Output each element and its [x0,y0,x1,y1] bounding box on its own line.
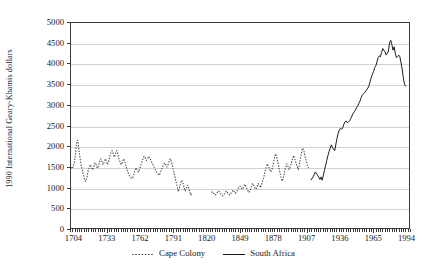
x-axis-tick-mark [229,229,230,232]
x-axis-tick-mark [293,229,294,232]
x-axis-tick-mark [231,229,232,232]
x-axis-tick-mark [233,229,234,232]
x-axis-tick-label: 1820 [198,233,215,243]
x-axis-tick-mark [100,229,101,232]
y-axis-tick-label: 1500 [24,162,64,172]
x-axis-tick-mark [164,229,165,232]
x-axis-tick-label: 1762 [131,233,148,243]
series-line-cape-colony [211,148,308,196]
y-axis-title: 1990 International Geary-Khamis dollars [0,0,18,236]
x-axis-tick-mark [369,229,370,232]
y-axis-title-text: 1990 International Geary-Khamis dollars [5,49,14,188]
x-axis-tick-mark [408,229,409,232]
x-axis-tick-mark [127,229,128,232]
x-axis-tick-mark [353,229,354,232]
x-axis-tick-mark [403,229,404,232]
x-axis-tick-mark [155,229,156,232]
x-axis-tick-mark [77,229,78,232]
x-axis-tick-mark [307,229,308,233]
x-axis-tick-mark [235,229,236,232]
x-axis-tick-mark [362,229,363,232]
x-axis-tick-mark [288,229,289,232]
x-axis-tick-mark [137,229,138,232]
y-axis-tick-label: 0 [24,224,64,234]
legend-label: Cape Colony [159,248,205,258]
x-axis-tick-mark [242,229,243,232]
x-axis-tick-mark [201,229,202,232]
x-axis-tick-mark [332,229,333,232]
x-axis-tick-mark [123,229,124,232]
x-axis-tick-mark [330,229,331,232]
y-axis-tick-label: 500 [24,203,64,213]
x-axis-tick-mark [311,229,312,232]
x-axis-tick-mark [341,229,342,232]
y-axis-tick-label: 3500 [24,79,64,89]
x-axis-tick-mark [286,229,287,232]
x-axis-tick-mark [300,229,301,232]
x-axis-tick-mark [116,229,117,232]
x-axis-tick-mark [185,229,186,232]
x-axis-tick-mark [173,229,174,233]
x-axis-tick-mark [107,229,108,233]
x-axis-tick-mark [410,229,411,232]
x-axis-tick-mark [215,229,216,232]
x-axis-tick-mark [385,229,386,232]
x-axis-tick-mark [114,229,115,232]
legend-item[interactable]: South Africa [223,248,295,258]
x-axis-tick-mark [291,229,292,232]
x-axis-tick-mark [70,229,71,232]
x-axis-tick-mark [279,229,280,232]
y-axis-tick-label: 1000 [24,183,64,193]
x-axis-tick-mark [125,229,126,232]
legend-item[interactable]: Cape Colony [132,248,205,258]
x-axis-tick-mark [86,229,87,232]
legend-swatch-icon [132,250,154,257]
x-axis-tick-mark [277,229,278,232]
x-axis-tick-mark [327,229,328,232]
x-axis-tick-mark [256,229,257,232]
y-axis-tick-label: 5000 [24,17,64,27]
x-axis-tick-mark [394,229,395,232]
x-axis-tick-mark [104,229,105,232]
x-axis-tick-mark [268,229,269,232]
x-axis-tick-mark [355,229,356,232]
x-axis-tick-mark [254,229,255,232]
x-axis-tick-mark [153,229,154,232]
x-axis-tick-mark [88,229,89,232]
x-axis-tick-mark [222,229,223,232]
x-axis-tick-mark [93,229,94,232]
x-axis-tick-mark [348,229,349,232]
y-axis-tick-label: 3000 [24,100,64,110]
x-axis-tick-mark [272,229,273,232]
x-axis-tick-mark [194,229,195,232]
x-axis-tick-mark [150,229,151,232]
x-axis-tick-label: 1907 [298,233,315,243]
x-axis-tick-label: 1849 [231,233,248,243]
x-axis-tick-mark [364,229,365,232]
x-axis-tick-mark [72,229,73,232]
x-axis-tick-mark [217,229,218,232]
x-axis-tick-mark [240,229,241,233]
x-axis-tick-mark [169,229,170,232]
x-axis-tick-mark [270,229,271,232]
x-axis-tick-mark [130,229,131,232]
x-axis-tick-mark [79,229,80,232]
x-axis-tick-mark [192,229,193,232]
x-axis-tick-mark [350,229,351,232]
x-axis-tick-mark [371,229,372,232]
x-axis-tick-mark [314,229,315,232]
x-axis-tick-mark [336,229,337,232]
x-axis-tick-mark [297,229,298,232]
x-axis-tick-mark [102,229,103,232]
x-axis-tick-mark [178,229,179,232]
x-axis-tick-mark [339,229,340,232]
chart-figure: 1990 International Geary-Khamis dollars … [0,0,427,270]
x-axis-tick-mark [187,229,188,232]
x-axis-tick-mark [323,229,324,232]
x-axis-tick-mark [183,229,184,232]
x-axis-tick-mark [134,229,135,232]
x-axis-tick-mark [146,229,147,232]
x-axis-tick-mark [121,229,122,232]
x-axis-tick-mark [258,229,259,232]
x-axis-tick-mark [245,229,246,232]
